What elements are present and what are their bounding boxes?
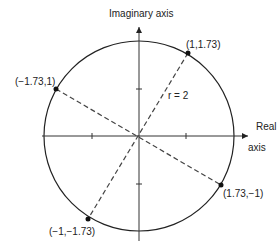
point-label-1: (1,1.73) [186,40,220,50]
point-neg1.73-1 [54,87,59,92]
point-neg1-neg1.73 [86,217,91,222]
real-axis-label-line2: axis [248,143,266,153]
point-label-2: (−1.73,1) [15,77,55,87]
point-1-1.73 [186,51,191,56]
point-label-3: (1.73,−1) [223,189,263,199]
point-1.73-neg1 [219,183,224,188]
real-axis-label-line1: Real [256,122,277,132]
radius-label: r = 2 [168,91,188,101]
complex-plane-diagram [0,0,277,249]
imaginary-axis-label: Imaginary axis [109,9,173,19]
point-label-4: (−1,−1.73) [49,227,95,237]
